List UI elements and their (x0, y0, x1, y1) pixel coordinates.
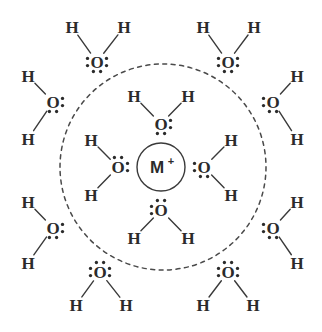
oh-bond (34, 111, 47, 131)
hydrogen-label: H (127, 87, 140, 106)
lone-pair-dot (217, 267, 220, 270)
lone-pair-dot (169, 126, 172, 129)
hydrogen-label: H (21, 67, 34, 86)
oh-bond (235, 35, 248, 53)
outer-shell-water-molecule: OHH (196, 18, 260, 74)
central-ion-layer: M+ (137, 143, 185, 191)
inner-shell-water-molecule: OHH (193, 131, 238, 205)
oh-bond (141, 103, 153, 116)
hydrogen-label: H (117, 18, 130, 37)
hydrogen-label: H (181, 87, 194, 106)
lone-pair-dot (236, 274, 239, 277)
lone-pair-dot (89, 274, 92, 277)
hydrogen-label: H (21, 193, 34, 212)
lone-pair-dot (217, 64, 220, 67)
oxygen-label: O (221, 53, 234, 72)
oxygen-label: O (90, 53, 103, 72)
lone-pair-dot (108, 267, 111, 270)
hydrogen-label: H (65, 18, 78, 37)
lone-pair-dot (108, 274, 111, 277)
hydrogen-label: H (196, 296, 209, 315)
lone-pair-dot (262, 97, 265, 100)
lone-pair-dot (236, 267, 239, 270)
oh-bond (169, 218, 181, 231)
hydrogen-label: H (21, 254, 34, 273)
hydrogen-label: H (224, 186, 237, 205)
oh-bond (209, 35, 222, 53)
oh-bond (35, 209, 45, 220)
lone-pair-dot (236, 57, 239, 60)
oxygen-label: O (266, 219, 279, 238)
ion-symbol-label: M (150, 158, 164, 177)
hydrogen-label: H (247, 18, 260, 37)
oh-bond (279, 111, 292, 130)
hydrogen-label: H (290, 67, 303, 86)
lone-pair-dot (61, 223, 64, 226)
oxygen-label: O (221, 263, 234, 282)
hydrogen-label: H (84, 186, 97, 205)
lone-pair-dot (105, 57, 108, 60)
oh-bond (35, 83, 45, 94)
oh-bond (279, 237, 291, 255)
inner-shell-water-molecule: OHH (127, 199, 194, 248)
oh-bond (98, 175, 110, 188)
hydrogen-label: H (290, 254, 303, 273)
hydrogen-label: H (290, 130, 303, 149)
lone-pair-dot (61, 97, 64, 100)
lone-pair-dot (61, 230, 64, 233)
lone-pair-dot (89, 267, 92, 270)
lone-pair-dot (126, 169, 129, 172)
hydrogen-label: H (181, 229, 194, 248)
oxygen-label: O (154, 201, 167, 220)
hydrogen-label: H (69, 296, 82, 315)
outer-shell-water-molecule: OHH (21, 193, 64, 273)
lone-pair-dot (150, 205, 153, 208)
oh-bond (78, 35, 91, 53)
oh-bond (107, 281, 120, 298)
outer-shell-water-molecule: OHH (65, 18, 130, 74)
hydrogen-label: H (196, 18, 209, 37)
lone-pair-dot (217, 57, 220, 60)
oxygen-label: O (93, 263, 106, 282)
lone-pair-dot (236, 64, 239, 67)
oxygen-label: O (266, 93, 279, 112)
oh-bond (82, 281, 94, 297)
oh-bond (212, 147, 224, 159)
hydrogen-label: H (119, 296, 132, 315)
lone-pair-dot (86, 64, 89, 67)
oxygen-label: O (46, 219, 59, 238)
oh-bond (98, 147, 110, 159)
oh-bond (141, 218, 153, 231)
oh-bond (34, 237, 47, 255)
solvated-ion-diagram: OHHOHHOHHOHHOHHOHHOHHOHH OHHOHHOHHOHH M+ (0, 0, 322, 332)
hydrogen-label: H (21, 130, 34, 149)
oh-bond (212, 175, 224, 188)
lone-pair-dot (126, 162, 129, 165)
oh-bond (104, 35, 118, 53)
inner-shell-water-molecule: OHH (84, 131, 129, 205)
oxygen-label: O (46, 93, 59, 112)
oh-bond (235, 281, 247, 297)
outer-shell-water-molecule: OHH (262, 67, 304, 149)
oh-bond (209, 281, 221, 297)
oxygen-label: O (197, 158, 210, 177)
lone-pair-dot (105, 64, 108, 67)
hydrogen-label: H (127, 229, 140, 248)
lone-pair-dot (86, 57, 89, 60)
outer-shell-water-molecule: OHH (196, 261, 259, 315)
lone-pair-dot (193, 162, 196, 165)
lone-pair-dot (61, 104, 64, 107)
oxygen-label: O (111, 158, 124, 177)
oxygen-label: O (154, 115, 167, 134)
oh-bond (280, 209, 290, 220)
outer-shell-water-molecule: OHH (21, 67, 64, 149)
diagram-canvas: OHHOHHOHHOHHOHHOHHOHHOHH OHHOHHOHHOHH M+ (0, 0, 322, 332)
lone-pair-dot (169, 119, 172, 122)
hydrogen-label: H (224, 131, 237, 150)
oh-bond (280, 83, 290, 94)
oh-bond (169, 103, 181, 116)
lone-pair-dot (217, 274, 220, 277)
lone-pair-dot (262, 223, 265, 226)
hydrogen-label: H (290, 193, 303, 212)
hydrogen-label: H (246, 296, 259, 315)
